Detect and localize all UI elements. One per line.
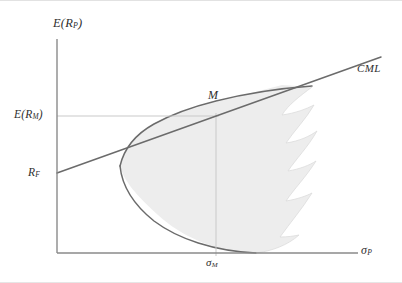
market-portfolio-label: M [208,89,218,101]
market-risk-label: σM [206,257,217,269]
cml-figure: E(RP) E(RM) RF M CML σM σP [0,0,402,283]
feasible-set-region [120,85,317,253]
cml-plot-svg [0,1,402,283]
x-axis-title: σP [361,244,372,257]
y-axis-title: E(RP) [53,17,82,30]
expected-market-return-label: E(RM) [14,109,43,121]
cml-label: CML [357,63,381,74]
risk-free-rate-label: RF [28,167,40,179]
